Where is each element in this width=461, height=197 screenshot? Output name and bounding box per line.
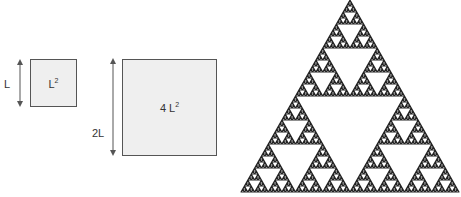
large-square: 4 L2 xyxy=(122,59,217,156)
large-side-label: 2L xyxy=(92,127,104,139)
sierpinski-triangle xyxy=(241,0,459,192)
small-area-label: L2 xyxy=(48,77,58,90)
large-area-label: 4 L2 xyxy=(160,101,179,114)
small-side-label: L xyxy=(4,78,10,90)
small-square: L2 xyxy=(30,59,77,107)
